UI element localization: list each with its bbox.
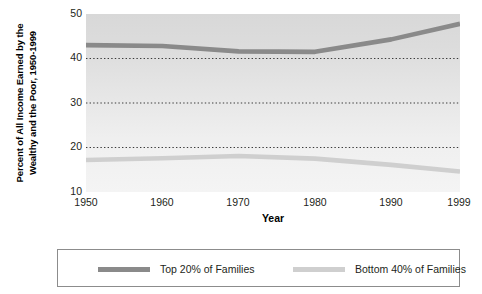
y-tick-label: 40: [56, 52, 82, 63]
y-axis-title-line1: Percent of All Income Earned by the: [14, 24, 27, 183]
y-tick-label: 20: [56, 141, 82, 152]
chart-figure: Percent of All Income Earned by the Weal…: [0, 0, 482, 294]
y-axis-title: Percent of All Income Earned by the Weal…: [0, 0, 52, 206]
x-axis-title: Year: [86, 212, 460, 224]
x-tick-label: 1950: [63, 196, 109, 208]
series-line-bottom-40-percent: [86, 156, 460, 172]
chart-legend: Top 20% of Families Bottom 40% of Famili…: [57, 249, 460, 287]
chart-canvas: [86, 14, 460, 192]
legend-label: Top 20% of Families: [160, 263, 255, 275]
gridlines: [86, 59, 460, 148]
legend-label: Bottom 40% of Families: [355, 263, 466, 275]
x-tick-label: 1960: [139, 196, 185, 208]
y-axis-tick-labels: 50 40 30 20 10: [52, 0, 82, 206]
plot-area: [86, 14, 460, 192]
series-line-top-20-percent: [86, 24, 460, 52]
legend-swatch-icon: [293, 267, 345, 272]
x-tick-label: 1970: [215, 196, 261, 208]
x-tick-label: 1980: [292, 196, 338, 208]
y-tick-label: 50: [56, 8, 82, 19]
y-axis-title-line2: Wealthy and the Poor, 1950-1999: [26, 24, 39, 183]
x-tick-label: 1999: [436, 196, 482, 208]
x-axis-tick-labels: 1950 1960 1970 1980 1990 1999: [0, 196, 482, 210]
legend-item-bottom-40: Bottom 40% of Families: [293, 262, 466, 276]
y-tick-label: 30: [56, 97, 82, 108]
x-tick-label: 1990: [368, 196, 414, 208]
legend-swatch-icon: [98, 267, 150, 272]
legend-item-top-20: Top 20% of Families: [98, 262, 255, 276]
